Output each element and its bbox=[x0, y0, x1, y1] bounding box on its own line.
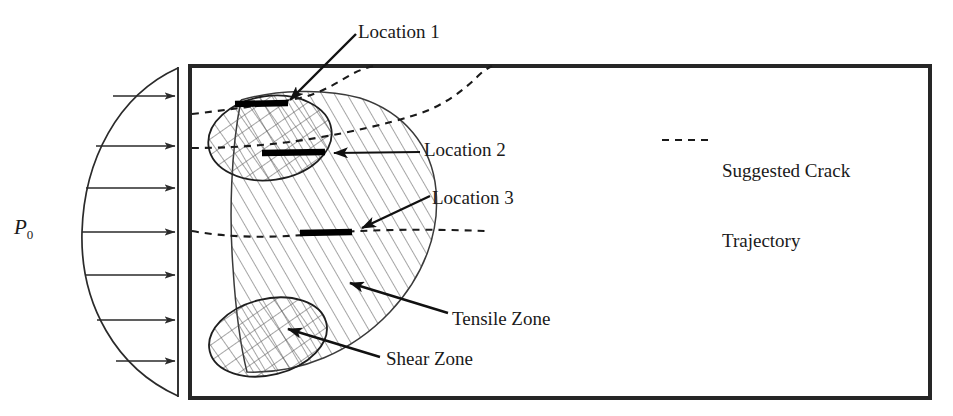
label-tensile-zone: Tensile Zone bbox=[452, 307, 550, 330]
legend-line-1: Suggested Crack bbox=[722, 159, 850, 182]
leader-location-2 bbox=[334, 152, 420, 153]
pressure-distribution bbox=[82, 67, 178, 397]
pressure-arrows bbox=[82, 96, 175, 361]
legend-text: Suggested Crack Trajectory bbox=[722, 113, 850, 298]
label-shear-zone: Shear Zone bbox=[386, 347, 473, 370]
label-location-1: Location 1 bbox=[358, 20, 440, 43]
crack-marker-location-1 bbox=[235, 103, 288, 104]
pressure-label: P0 bbox=[14, 215, 33, 243]
label-location-2: Location 2 bbox=[424, 138, 506, 161]
pressure-subscript: 0 bbox=[27, 227, 34, 242]
figure-canvas: P0 Location 1 Location 2 Location 3 Tens… bbox=[0, 0, 953, 416]
crack-marker-location-2 bbox=[262, 152, 325, 153]
pressure-symbol: P bbox=[14, 215, 27, 239]
label-location-3: Location 3 bbox=[432, 186, 514, 209]
legend-line-2: Trajectory bbox=[722, 229, 850, 252]
crack-marker-location-3 bbox=[300, 232, 352, 233]
